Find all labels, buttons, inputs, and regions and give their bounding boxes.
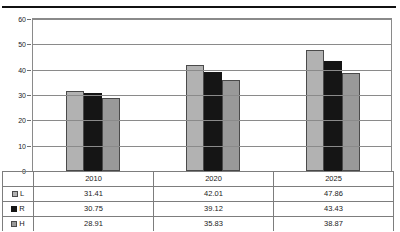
y-axis-tick-label: 60 (18, 16, 26, 23)
table-cell-H-2010: 28.91 (34, 217, 154, 232)
plot-area (32, 18, 392, 172)
table-column-header-2025: 2025 (274, 172, 394, 187)
legend-swatch-R (11, 206, 17, 212)
chart-figure: 0102030405060 201020202025L31.4142.0147.… (0, 0, 400, 231)
y-axis-tick-mark (27, 95, 31, 96)
y-axis-tick-label: 40 (18, 66, 26, 73)
table-column-header-2020: 2020 (154, 172, 274, 187)
table-header-row: 201020202025 (3, 172, 394, 187)
legend-label-H: H (19, 219, 24, 228)
bar-H-2020 (222, 80, 240, 171)
table-cell-L-2025: 47.86 (274, 187, 394, 202)
gridline (33, 95, 391, 96)
table-cell-H-2025: 38.87 (274, 217, 394, 232)
y-axis-tick-mark (27, 120, 31, 121)
table-cell-H-2020: 35.83 (154, 217, 274, 232)
bar-L-2025 (306, 50, 324, 171)
y-axis-tick-label: 10 (18, 142, 26, 149)
gridline (33, 70, 391, 71)
y-axis-tick-mark (27, 146, 31, 147)
gridline (33, 19, 391, 20)
table-cell-L-2020: 42.01 (154, 187, 274, 202)
data-table-wrapper: 201020202025L31.4142.0147.86R30.7539.124… (2, 171, 394, 231)
bar-L-2010 (66, 91, 84, 171)
table-cell-R-2010: 30.75 (34, 202, 154, 217)
table-row: H28.9135.8338.87 (3, 217, 394, 232)
gridline (33, 120, 391, 121)
table-cell-R-2020: 39.12 (154, 202, 274, 217)
y-axis-tick-label: 30 (18, 92, 26, 99)
table-row: L31.4142.0147.86 (3, 187, 394, 202)
bar-R-2025 (324, 61, 342, 171)
y-axis-tick-label: 50 (18, 41, 26, 48)
legend-swatch-L (12, 191, 18, 197)
table-cell-R-2025: 43.43 (274, 202, 394, 217)
y-axis-tick-mark (27, 70, 31, 71)
table-cell-L-2010: 31.41 (34, 187, 154, 202)
y-axis-tick-mark (27, 19, 31, 20)
gridline (33, 146, 391, 147)
table-column-header-2010: 2010 (34, 172, 154, 187)
y-axis-tick-mark (27, 44, 31, 45)
data-table-body: 201020202025L31.4142.0147.86R30.7539.124… (3, 172, 394, 232)
legend-label-L: L (20, 189, 24, 198)
bar-H-2010 (102, 98, 120, 171)
top-divider-rule (2, 6, 396, 8)
legend-swatch-H (11, 221, 17, 227)
legend-entry-R: R (3, 202, 34, 217)
gridline (33, 44, 391, 45)
legend-entry-H: H (3, 217, 34, 232)
table-row: R30.7539.1243.43 (3, 202, 394, 217)
data-table: 201020202025L31.4142.0147.86R30.7539.124… (2, 171, 394, 231)
table-corner-cell (3, 172, 34, 187)
bar-R-2020 (204, 72, 222, 171)
legend-entry-L: L (3, 187, 34, 202)
y-axis: 0102030405060 (0, 18, 30, 178)
plot-wrapper: 0102030405060 (0, 18, 400, 178)
bar-L-2020 (186, 65, 204, 171)
legend-label-R: R (19, 204, 24, 213)
bar-H-2025 (342, 73, 360, 171)
y-axis-tick-label: 20 (18, 117, 26, 124)
bar-R-2010 (84, 93, 102, 171)
